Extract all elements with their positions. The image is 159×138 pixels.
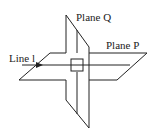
line-l-label: Line l xyxy=(9,52,35,64)
planes-diagram: Plane Q Plane P Line l xyxy=(0,0,159,138)
plane-p-label: Plane P xyxy=(106,39,139,51)
arrow-icon xyxy=(36,62,43,68)
plane-q-label: Plane Q xyxy=(76,11,111,23)
plane-p-right-part xyxy=(89,53,147,80)
